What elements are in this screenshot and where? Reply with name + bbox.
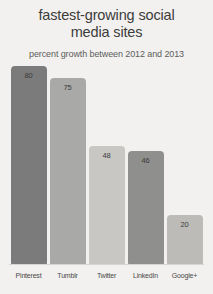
bar-googleplus[interactable]: 20 Google+ — [167, 215, 203, 265]
bar-value-googleplus: 20 — [167, 220, 203, 229]
bar-value-twitter: 48 — [89, 151, 125, 160]
bar-tumblr[interactable]: 75 Tumblr — [50, 78, 86, 265]
bar-column-tumblr: 75 Tumblr — [50, 66, 86, 265]
chart-subtitle: percent growth between 2012 and 2013 — [12, 49, 201, 60]
bar-twitter[interactable]: 48 Twitter — [89, 146, 125, 265]
bar-value-pinterest: 80 — [11, 71, 47, 80]
chart-container: fastest-growing social media sites perce… — [0, 0, 213, 294]
bar-value-tumblr: 75 — [50, 83, 86, 92]
chart-title: fastest-growing social media sites — [12, 7, 201, 40]
plot-area: 80 Pinterest 75 Tumblr 48 Twitter 46 — [9, 66, 204, 294]
bar-linkedin[interactable]: 46 LinkedIn — [128, 151, 164, 265]
bar-column-pinterest: 80 Pinterest — [11, 66, 47, 265]
axis-baseline — [9, 264, 204, 265]
bar-pinterest[interactable]: 80 Pinterest — [11, 66, 47, 265]
bar-column-googleplus: 20 Google+ — [167, 66, 203, 265]
chart-header: fastest-growing social media sites perce… — [0, 0, 213, 60]
bar-column-twitter: 48 Twitter — [89, 66, 125, 265]
bar-column-linkedin: 46 LinkedIn — [128, 66, 164, 265]
bar-value-linkedin: 46 — [128, 156, 164, 165]
bar-series: 80 Pinterest 75 Tumblr 48 Twitter 46 — [9, 66, 204, 265]
category-label-googleplus: Google+ — [161, 272, 209, 279]
